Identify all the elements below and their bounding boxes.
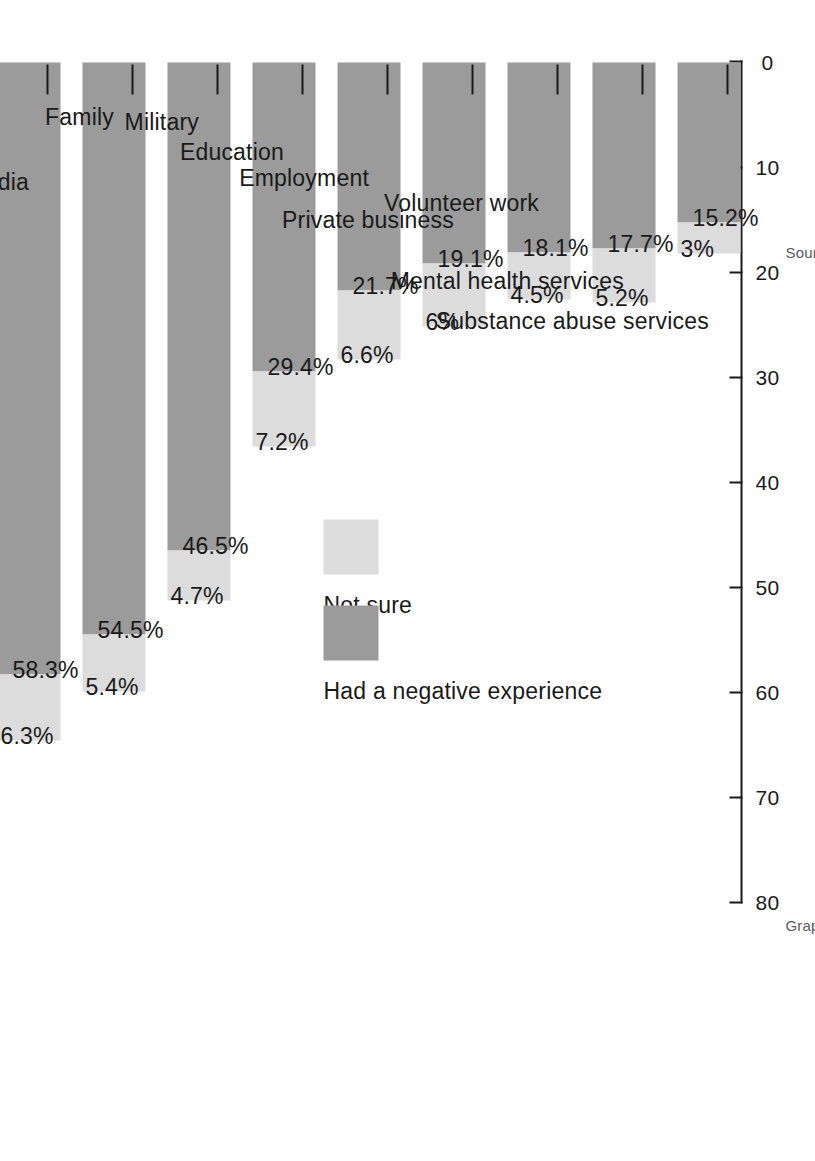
- category-label: Mental health services: [391, 268, 624, 295]
- bar-group: 19.1%6%: [422, 62, 485, 902]
- value-label-negative: 15.2%: [692, 204, 758, 231]
- category-tick: [46, 64, 48, 94]
- value-label-not-sure: 3%: [680, 235, 714, 262]
- category-tick: [471, 64, 473, 94]
- category-tick: [301, 64, 303, 94]
- category-tick: [556, 64, 558, 94]
- value-label-not-sure: 4.7%: [170, 582, 223, 609]
- category-label: Private business: [282, 206, 454, 233]
- category-tick: [386, 64, 388, 94]
- axis-tick-label: 30: [755, 365, 779, 389]
- category-label: Substance abuse services: [436, 308, 709, 335]
- value-label-negative: 17.7%: [607, 230, 673, 257]
- category-label: Education: [180, 139, 284, 166]
- category-tick: [131, 64, 133, 94]
- category-label: Family: [45, 103, 114, 130]
- bar-group: 54.5%5.4%: [82, 62, 145, 902]
- bar-group: 46.5%4.7%: [167, 62, 230, 902]
- source-note: Source: 2019 U.S. Secular Survey: [785, 243, 815, 260]
- bar-segment-negative: [507, 62, 570, 252]
- category-label: Military: [125, 109, 199, 136]
- bar-segment-negative: [0, 62, 60, 674]
- value-label-not-sure: 5.4%: [85, 673, 138, 700]
- bar-segment-negative: [677, 62, 740, 222]
- chart-figure: 01020304050607080 15.2%3%17.7%5.2%18.1%4…: [0, 0, 815, 1161]
- category-tick: [726, 64, 728, 94]
- category-label: Social media: [0, 169, 29, 196]
- category-tick: [216, 64, 218, 94]
- category-tick: [641, 64, 643, 94]
- bar-segment-negative: [82, 62, 145, 634]
- axis-tick-label: 80: [755, 890, 779, 914]
- axis-tick-label: 50: [755, 575, 779, 599]
- legend-label-negative: Had a negative experience: [323, 677, 602, 704]
- value-label-not-sure: 6.3%: [0, 722, 53, 749]
- axis-tick-label: 70: [755, 785, 779, 809]
- plot-area: 01020304050607080 15.2%3%17.7%5.2%18.1%4…: [0, 0, 815, 1161]
- bar-group: 18.1%4.5%: [507, 62, 570, 902]
- category-label: Employment: [239, 164, 369, 191]
- value-label-negative: 29.4%: [267, 353, 333, 380]
- value-label-negative: 54.5%: [97, 616, 163, 643]
- axis-tick-label: 0: [761, 50, 773, 74]
- value-label-negative: 58.3%: [12, 656, 78, 683]
- chart-rotated-canvas: 01020304050607080 15.2%3%17.7%5.2%18.1%4…: [0, 0, 815, 1161]
- axis-tick-label: 60: [755, 680, 779, 704]
- axis-tick-label: 40: [755, 470, 779, 494]
- bar-group: 15.2%3%: [677, 62, 740, 902]
- bar-segment-negative: [592, 62, 655, 248]
- dark-gray-swatch: [323, 605, 378, 660]
- value-label-negative: 18.1%: [522, 234, 588, 261]
- axis-tick-label: 10: [755, 155, 779, 179]
- credit-note: Graphic by Karly Graham: [785, 916, 815, 933]
- bar-group: 17.7%5.2%: [592, 62, 655, 902]
- value-label-not-sure: 6.6%: [340, 341, 393, 368]
- light-gray-swatch: [323, 519, 378, 574]
- value-label-negative: 46.5%: [182, 532, 248, 559]
- axis-tick-label: 20: [755, 260, 779, 284]
- value-label-not-sure: 7.2%: [255, 428, 308, 455]
